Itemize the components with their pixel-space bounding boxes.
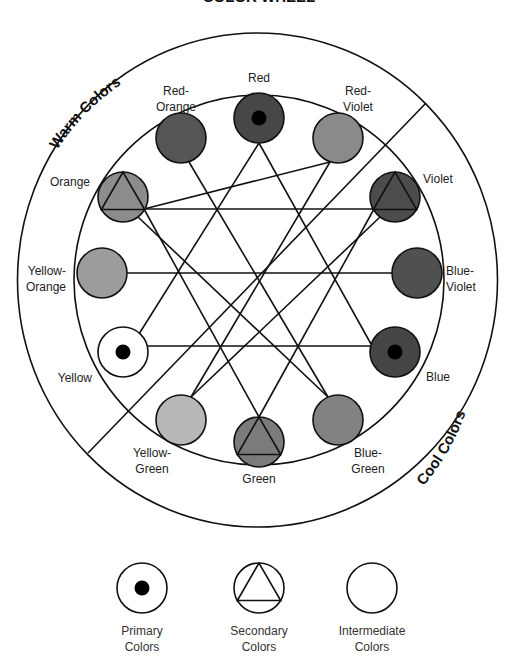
color-yellow-orange (77, 248, 127, 298)
color-swatch (313, 395, 363, 445)
primary-dot-icon (252, 111, 267, 126)
label-yellow-orange: Yellow-Orange (26, 264, 66, 294)
label-violet: Violet (423, 172, 453, 186)
color-swatch (347, 563, 397, 613)
color-red-orange (156, 113, 206, 163)
primary-dot-icon (116, 345, 131, 360)
cool-colors-label: Cool Colors (413, 408, 469, 488)
color-blue-violet (392, 248, 442, 298)
legend-label-intermediate: IntermediateColors (339, 624, 406, 654)
color-red-violet (313, 113, 363, 163)
color-swatch (313, 113, 363, 163)
legend-secondary: SecondaryColors (230, 563, 287, 654)
color-swatch (156, 395, 206, 445)
label-red-orange: Red-Orange (156, 84, 196, 114)
label-red-violet: Red-Violet (343, 84, 373, 114)
color-green (234, 417, 284, 467)
label-orange: Orange (50, 175, 90, 189)
legend-primary: PrimaryColors (117, 563, 167, 654)
color-yellow (98, 327, 148, 377)
connector-line (191, 162, 330, 397)
primary-dot-icon (135, 581, 150, 596)
color-swatch (98, 172, 148, 222)
legend: PrimaryColorsSecondaryColorsIntermediate… (117, 563, 406, 654)
color-blue (370, 327, 420, 377)
label-red: Red (248, 71, 270, 85)
legend-intermediate: IntermediateColors (339, 563, 406, 654)
color-violet (370, 172, 420, 222)
connector-line (139, 143, 259, 334)
color-swatch (234, 563, 284, 613)
label-blue: Blue (426, 370, 450, 384)
color-blue-green (313, 395, 363, 445)
label-yellow: Yellow (58, 371, 93, 385)
color-swatch (77, 248, 127, 298)
color-swatch (234, 417, 284, 467)
connector-line (144, 209, 259, 417)
color-wheel-diagram: COLOR WHEEL Warm Colors Cool Colors RedR… (0, 0, 515, 665)
color-swatch (156, 113, 206, 163)
diagram-title: COLOR WHEEL (203, 0, 316, 5)
color-swatch (370, 172, 420, 222)
label-green: Green (242, 472, 275, 486)
label-yellow-green: Yellow-Green (133, 446, 171, 476)
connector-line (144, 162, 330, 209)
color-swatch (392, 248, 442, 298)
connector-line (189, 162, 328, 397)
label-blue-green: Blue-Green (351, 446, 384, 476)
connector-lines (127, 143, 392, 417)
legend-label-secondary: SecondaryColors (230, 624, 287, 654)
label-blue-violet: Blue-Violet (446, 264, 476, 294)
primary-dot-icon (388, 345, 403, 360)
legend-label-primary: PrimaryColors (121, 624, 162, 654)
color-yellow-green (156, 395, 206, 445)
color-red (234, 93, 284, 143)
color-orange (98, 172, 148, 222)
